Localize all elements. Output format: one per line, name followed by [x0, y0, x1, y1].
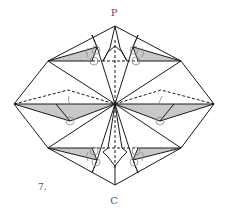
origami-diagram: P C 7.	[0, 0, 229, 215]
step-number: 7.	[38, 182, 47, 192]
top-label: P	[111, 7, 118, 18]
bottom-label: C	[110, 195, 118, 206]
